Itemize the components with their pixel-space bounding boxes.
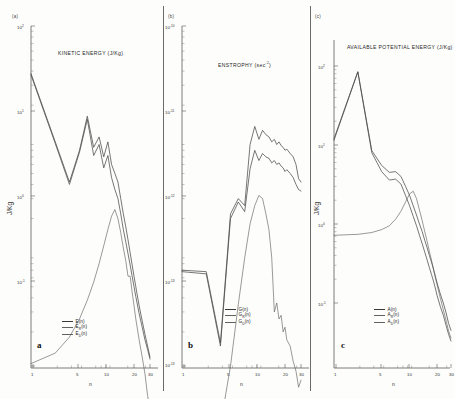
panel-available-potential-energy: (c) AVAILABLE POTENTIAL ENERGY (J/Kg) J/… — [310, 0, 455, 399]
panel-b-plot — [163, 0, 313, 399]
panel-c-plot — [310, 0, 455, 399]
panel-enstrophy: (b) ENSTROPHY (sec-2) 10-10 10-11 10-12 … — [163, 0, 313, 399]
figure-container: (a) KINETIC ENERGY (J/Kg) J/Kg 102 101 1… — [0, 0, 455, 399]
panel-kinetic-energy: (a) KINETIC ENERGY (J/Kg) J/Kg 102 101 1… — [0, 0, 165, 399]
panel-a-plot — [0, 0, 165, 399]
